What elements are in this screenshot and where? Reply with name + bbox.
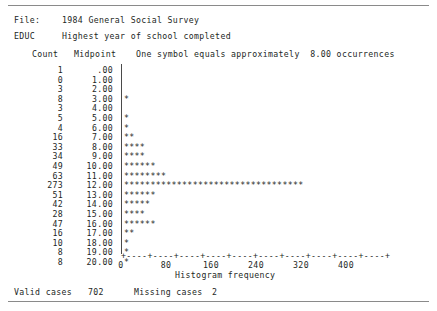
histogram-symbol-legend: One symbol equals approximately 8.00 occ… [136,50,395,59]
spss-histogram-output: File: 1984 General Social Survey EDUC Hi… [0,0,437,311]
bottom-divider [8,301,429,302]
x-axis-tick-label: 240 [248,261,264,270]
histogram-row-count: 5 [0,114,63,124]
column-header-count: Count [32,50,58,59]
x-axis-tick-label: 0 [118,261,123,270]
histogram-row-count: 3 [0,104,63,114]
missing-cases-label: Missing cases [134,288,203,297]
x-axis-tick-label: 160 [203,261,219,270]
variable-label: EDUC [14,32,35,41]
histogram-row-count: 10 [0,239,63,249]
missing-cases-value: 2 [212,288,217,297]
histogram-row-count: 8 [0,95,63,105]
histogram-row-count: 0 [0,76,63,86]
x-axis-tick-label: 400 [338,261,354,270]
valid-cases-value: 702 [88,288,104,297]
variable-description: Highest year of school completed [62,32,231,41]
histogram-x-axis-title: Histogram frequency [175,271,275,280]
histogram-row-bar: * [124,95,129,105]
column-header-midpoint: Midpoint [74,50,116,59]
valid-cases-label: Valid cases [14,288,72,297]
x-axis-tick-label: 320 [293,261,309,270]
file-value: 1984 General Social Survey [62,16,199,25]
top-divider [8,5,429,6]
histogram-vertical-axis [121,64,122,254]
histogram-row-count: 1 [0,66,63,76]
x-axis-tick-label: 80 [161,261,172,270]
file-label: File: [14,16,40,25]
histogram-row-count: 8 [0,248,63,258]
histogram-row-count: 3 [0,85,63,95]
